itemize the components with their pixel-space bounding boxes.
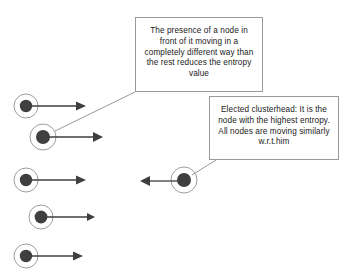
velocity-arrow-head-icon <box>76 176 86 185</box>
callout-line: node with the highest entropy. <box>214 116 334 127</box>
mobile-node-1[interactable] <box>14 94 86 118</box>
clusterhead-explanation-callout: Elected clusterhead: It is the node with… <box>209 96 339 160</box>
leader-line-clusterhead <box>192 160 216 175</box>
mobile-node-5[interactable] <box>14 244 83 268</box>
elected-clusterhead-node[interactable] <box>140 167 197 193</box>
callout-line: Elected clusterhead: It is the <box>214 105 334 116</box>
callout-line: All nodes are moving similarly <box>214 127 334 138</box>
callout-line: the rest reduces the entropy <box>140 58 258 69</box>
mobile-node-4[interactable] <box>29 205 95 229</box>
entropy-explanation-callout: The presence of a node in front of it mo… <box>135 17 263 92</box>
velocity-arrow-head-icon <box>140 176 150 186</box>
callout-line: The presence of a node in <box>140 26 258 37</box>
velocity-arrow-head-icon <box>93 132 103 142</box>
velocity-arrow-head-icon <box>76 102 86 111</box>
velocity-arrow-head-icon <box>87 213 95 221</box>
leader-line-entropy <box>55 92 135 131</box>
node-core-icon <box>177 173 191 187</box>
callout-line: value <box>140 69 258 80</box>
mobile-node-2[interactable] <box>30 124 103 150</box>
callout-line: completely different way than <box>140 48 258 59</box>
callout-line: front of it moving in a <box>140 37 258 48</box>
callout-line: w.r.t.him <box>214 137 334 148</box>
mobile-node-3[interactable] <box>14 168 86 192</box>
velocity-arrow-head-icon <box>73 252 83 261</box>
diagram-canvas: The presence of a node in front of it mo… <box>0 0 349 279</box>
